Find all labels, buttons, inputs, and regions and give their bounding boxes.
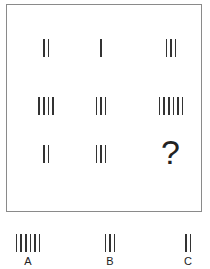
- option-a[interactable]: A: [3, 234, 53, 267]
- tally-mark: [48, 97, 50, 115]
- tally-mark: [105, 234, 107, 252]
- option-label: B: [106, 255, 113, 267]
- option-tally: [105, 234, 116, 252]
- tally-mark: [25, 234, 27, 252]
- tally-cell: [141, 39, 201, 59]
- tally-mark: [175, 39, 177, 57]
- tally-cell: [16, 39, 76, 59]
- tally-cell: [141, 97, 201, 117]
- option-label: C: [184, 255, 192, 267]
- option-tally: [16, 234, 41, 252]
- tally-mark: [190, 234, 192, 252]
- tally-mark: [34, 234, 36, 252]
- tally-mark: [96, 97, 98, 115]
- tally-mark: [43, 97, 45, 115]
- tally-cell: [71, 39, 131, 59]
- tally-mark: [100, 97, 102, 115]
- tally-cell: [71, 145, 131, 165]
- option-label: A: [24, 255, 31, 267]
- tally-mark: [166, 39, 168, 57]
- option-b[interactable]: B: [85, 234, 135, 267]
- tally-mark: [20, 234, 22, 252]
- tally-cell: [16, 145, 76, 165]
- question-mark: ?: [161, 135, 180, 169]
- tally-mark: [163, 97, 165, 115]
- tally-mark: [16, 234, 18, 252]
- tally-mark: [100, 39, 102, 57]
- tally-mark: [177, 97, 179, 115]
- tally-mark: [43, 145, 45, 163]
- option-tally: [185, 234, 191, 252]
- tally-mark: [38, 97, 40, 115]
- tally-mark: [170, 39, 172, 57]
- tally-mark: [30, 234, 32, 252]
- tally-cell: [16, 97, 76, 117]
- tally-mark: [100, 145, 102, 163]
- tally-mark: [159, 97, 161, 115]
- tally-mark: [39, 234, 41, 252]
- tally-mark: [114, 234, 116, 252]
- tally-mark: [105, 97, 107, 115]
- tally-mark: [168, 97, 170, 115]
- option-c[interactable]: C: [163, 234, 210, 267]
- tally-cell: [71, 97, 131, 117]
- tally-mark: [182, 97, 184, 115]
- tally-mark: [48, 39, 50, 57]
- tally-mark: [109, 234, 111, 252]
- tally-mark: [48, 145, 50, 163]
- tally-mark: [185, 234, 187, 252]
- tally-mark: [43, 39, 45, 57]
- tally-mark: [105, 145, 107, 163]
- tally-mark: [52, 97, 54, 115]
- tally-mark: [173, 97, 175, 115]
- tally-mark: [96, 145, 98, 163]
